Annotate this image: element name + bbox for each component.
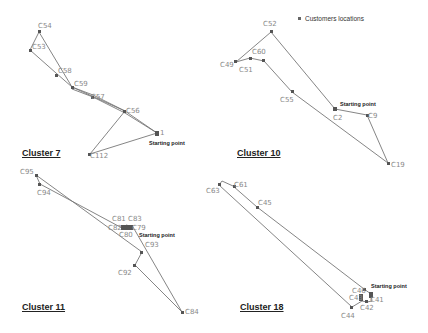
label-c93: C93 [145, 241, 159, 249]
starting-point-label-10: Starting point [340, 101, 376, 107]
starting-point-label-7: Starting point [149, 140, 185, 146]
cluster-10-title: Cluster 10 [237, 148, 281, 158]
cluster-11-title: Cluster 11 [22, 302, 65, 312]
label-c55: C55 [280, 96, 294, 104]
label-c84: C84 [185, 308, 199, 316]
node-c92 [133, 264, 136, 267]
node-c42 [365, 300, 368, 303]
label-c44: C44 [341, 312, 355, 320]
node-c63 [218, 183, 221, 186]
label-c51: C51 [239, 66, 253, 74]
label-c52: C52 [263, 20, 277, 28]
label-c1: 1 [160, 129, 164, 137]
starting-point-label-11: Starting point [139, 232, 175, 238]
label-c60: C60 [252, 48, 266, 56]
label-c45: C45 [258, 199, 272, 207]
node-c49 [234, 60, 237, 63]
customer-location-marker-icon [298, 17, 301, 20]
node-c52 [270, 30, 273, 33]
cluster-7-title: Cluster 7 [22, 148, 61, 158]
legend-label: Customers locations [305, 15, 364, 22]
label-c49: C49 [220, 61, 234, 69]
node-c1 [155, 131, 159, 136]
node-c93 [140, 251, 143, 254]
label-c112: C112 [90, 152, 108, 160]
cluster-11-plot: C95 C94 C81 C83 C82 C79 C80 C93 C92 C84 … [20, 168, 199, 316]
node-c60 [262, 59, 265, 62]
cluster-18-plot: C63 C61 C45 C46 C43 C41 C42 C44 Starting… [206, 181, 407, 320]
node-c19 [387, 162, 390, 165]
node-c95 [35, 174, 38, 177]
label-c41: C41 [370, 296, 384, 304]
node-c84 [181, 311, 184, 314]
label-c92: C92 [118, 269, 132, 277]
label-c63: C63 [206, 187, 220, 195]
label-c53: C53 [32, 43, 46, 51]
node-c55 [291, 90, 294, 93]
label-c57: C57 [91, 93, 105, 101]
label-c59: C59 [74, 80, 88, 88]
node-c54 [38, 30, 41, 33]
label-c61: C61 [234, 181, 248, 189]
label-c2: C2 [333, 114, 342, 122]
route-diagram: C54 C53 C58 C59 C57 C56 1 C112 Starting … [0, 0, 428, 333]
label-c43: C43 [349, 294, 363, 302]
label-c95: C95 [20, 168, 34, 176]
node-c2 [333, 107, 337, 111]
label-c54: C54 [38, 22, 52, 30]
label-c42: C42 [360, 304, 374, 312]
label-c9: C9 [368, 112, 377, 120]
label-c83: C83 [128, 215, 142, 223]
cluster-7-plot: C54 C53 C58 C59 C57 C56 1 C112 Starting … [29, 22, 185, 160]
label-c56: C56 [126, 107, 140, 115]
label-c79: C79 [132, 224, 146, 232]
legend: Customers locations [298, 15, 364, 22]
node-c44 [350, 306, 353, 309]
node-c51 [249, 57, 252, 60]
label-c80: C80 [119, 231, 133, 239]
cluster-18-title: Cluster 18 [240, 302, 284, 312]
node-c94 [38, 183, 41, 186]
starting-point-label-18: Starting point [371, 283, 407, 289]
cluster-10-plot: C52 C60 C49 C51 C55 C2 C9 C19 Starting p… [220, 20, 405, 169]
label-c81: C81 [112, 215, 126, 223]
label-c58: C58 [58, 67, 72, 75]
label-c19: C19 [391, 161, 405, 169]
label-c94: C94 [37, 189, 51, 197]
